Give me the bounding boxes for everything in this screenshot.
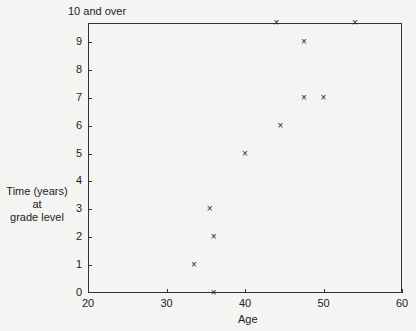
y-tick-mark (88, 209, 92, 210)
y-tick-mark (88, 98, 92, 99)
x-axis-label: Age (238, 313, 258, 325)
data-point-marker: × (209, 288, 219, 298)
y-tick-label: 3 (62, 202, 82, 214)
data-point-marker: × (299, 93, 309, 103)
data-point-marker: × (271, 18, 281, 28)
data-point-marker: × (240, 149, 250, 159)
data-point-marker: × (275, 121, 285, 131)
y-tick-mark (88, 237, 92, 238)
x-tick-mark (324, 289, 325, 293)
y-axis-top-label: 10 and over (68, 5, 126, 17)
y-tick-label: 1 (62, 258, 82, 270)
data-point-marker: × (209, 232, 219, 242)
y-tick-mark (88, 154, 92, 155)
x-tick-mark (88, 289, 89, 293)
data-point-marker: × (205, 204, 215, 214)
y-tick-label: 6 (62, 119, 82, 131)
y-axis-label-line: Time (years) (2, 185, 72, 198)
x-tick-mark (402, 289, 403, 293)
y-tick-label: 4 (62, 174, 82, 186)
y-tick-mark (88, 70, 92, 71)
y-tick-mark (88, 42, 92, 43)
x-tick-label: 50 (309, 297, 339, 309)
y-tick-label: 8 (62, 63, 82, 75)
y-tick-label: 2 (62, 230, 82, 242)
y-tick-mark (88, 126, 92, 127)
y-tick-label: 7 (62, 91, 82, 103)
y-tick-mark (88, 265, 92, 266)
x-tick-label: 20 (73, 297, 103, 309)
data-point-marker: × (350, 18, 360, 28)
data-point-marker: × (189, 260, 199, 270)
y-tick-label: 9 (62, 35, 82, 47)
y-tick-label: 5 (62, 147, 82, 159)
x-tick-label: 60 (387, 297, 416, 309)
x-tick-mark (245, 289, 246, 293)
x-tick-label: 30 (152, 297, 182, 309)
x-tick-mark (167, 289, 168, 293)
x-tick-label: 40 (230, 297, 260, 309)
data-point-marker: × (299, 37, 309, 47)
y-tick-mark (88, 181, 92, 182)
data-point-marker: × (319, 93, 329, 103)
